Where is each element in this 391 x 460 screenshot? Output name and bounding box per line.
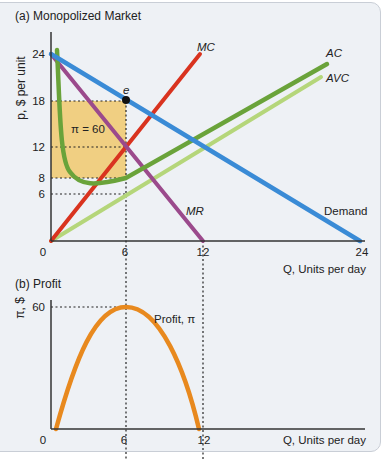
profit-curve (56, 307, 199, 429)
pi-area-label: π = 60 (71, 123, 105, 135)
ac-label: AC (325, 47, 343, 59)
demand-label: Demand (324, 205, 367, 217)
mr-label: MR (186, 205, 204, 217)
svg-text:12: 12 (197, 246, 210, 258)
x-label-b: Q, Units per day (283, 434, 366, 446)
y-ticks-a: 24 18 12 8 6 (32, 48, 45, 200)
svg-text:6: 6 (121, 434, 127, 446)
mc-label: MC (197, 41, 216, 53)
avc-label: AVC (325, 72, 350, 84)
y-label-b: π, $ (13, 297, 27, 319)
y-label-a: p, $ per unit (14, 56, 28, 120)
x-ticks-b: 0 6 12 (40, 434, 211, 446)
svg-text:0: 0 (40, 246, 46, 258)
y-tick-b-60: 60 (32, 301, 45, 313)
svg-text:24: 24 (356, 246, 369, 258)
svg-text:12: 12 (198, 434, 211, 446)
equilibrium-point-e (122, 96, 130, 104)
svg-text:6: 6 (122, 246, 128, 258)
svg-text:12: 12 (32, 141, 45, 153)
svg-text:8: 8 (39, 172, 45, 184)
e-label: e (123, 84, 129, 96)
svg-text:6: 6 (39, 188, 45, 200)
svg-text:0: 0 (40, 434, 46, 446)
title-a: (a) Monopolized Market (15, 9, 142, 23)
x-ticks-a: 0 6 12 24 (40, 246, 369, 258)
title-b: (b) Profit (15, 277, 62, 291)
svg-text:18: 18 (32, 95, 45, 107)
profit-curve-label: Profit, π (154, 313, 195, 325)
chart-svg: (a) Monopolized Market p, $ per unit 24 … (0, 0, 391, 460)
x-label-a: Q, Units per day (283, 263, 366, 275)
svg-text:24: 24 (32, 48, 45, 60)
